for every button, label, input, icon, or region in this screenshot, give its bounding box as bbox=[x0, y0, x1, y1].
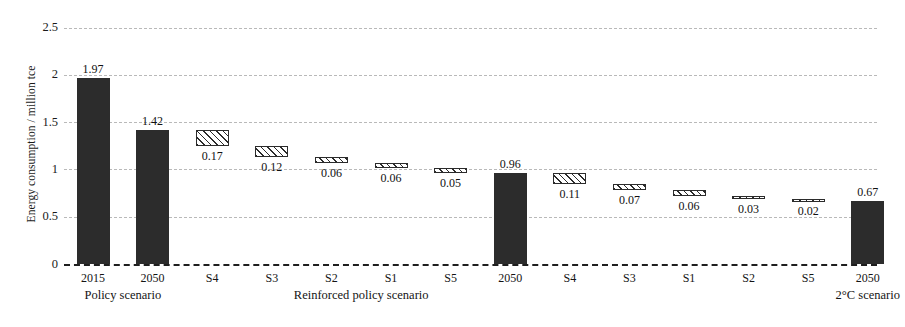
bar-hatched bbox=[375, 163, 408, 169]
bar-value-label: 0.06 bbox=[666, 200, 712, 212]
x-tick-label: 2015 bbox=[65, 272, 121, 284]
group-label: Policy scenario bbox=[3, 289, 243, 302]
x-tick-label: S5 bbox=[780, 272, 836, 284]
x-tick-label: 2050 bbox=[840, 272, 896, 284]
y-tick-label: 0.5 bbox=[24, 210, 58, 223]
bar-hatched bbox=[196, 130, 229, 146]
x-tick-label: 2050 bbox=[482, 272, 538, 284]
zero-axis-line bbox=[64, 264, 877, 266]
bar-solid bbox=[77, 78, 110, 264]
x-tick-label: S2 bbox=[303, 272, 359, 284]
x-tick-label: S1 bbox=[661, 272, 717, 284]
x-tick-label: S3 bbox=[244, 272, 300, 284]
bar-hatched bbox=[255, 146, 288, 157]
bar-hatched bbox=[553, 173, 586, 183]
bar-value-label: 0.07 bbox=[606, 194, 652, 206]
gridline bbox=[64, 122, 877, 123]
bar-hatched bbox=[613, 184, 646, 191]
bar-value-label: 0.67 bbox=[845, 186, 891, 198]
x-tick-label: S5 bbox=[423, 272, 479, 284]
x-tick-label: S4 bbox=[184, 272, 240, 284]
bar-solid bbox=[136, 130, 169, 264]
y-tick-label: 1 bbox=[24, 163, 58, 176]
x-tick-label: S1 bbox=[363, 272, 419, 284]
x-tick-label: S2 bbox=[721, 272, 777, 284]
plot-area: 1.971.420.170.120.060.060.050.960.110.07… bbox=[64, 0, 877, 327]
bar-hatched bbox=[434, 168, 467, 173]
bar-value-label: 0.02 bbox=[785, 205, 831, 217]
bar-hatched bbox=[732, 196, 765, 199]
x-tick-label: S3 bbox=[601, 272, 657, 284]
group-label: Reinforced policy scenario bbox=[241, 289, 481, 302]
gridline bbox=[64, 217, 877, 218]
bar-value-label: 0.17 bbox=[189, 150, 235, 162]
bar-hatched bbox=[315, 157, 348, 163]
x-tick-label: 2050 bbox=[125, 272, 181, 284]
y-tick-label: 2 bbox=[24, 68, 58, 81]
bar-value-label: 0.06 bbox=[368, 172, 414, 184]
bar-solid bbox=[494, 173, 527, 264]
x-tick-label: S4 bbox=[542, 272, 598, 284]
bar-value-label: 0.96 bbox=[487, 158, 533, 170]
bar-value-label: 0.03 bbox=[726, 203, 772, 215]
y-tick-label: 1.5 bbox=[24, 116, 58, 129]
y-tick-label: 2.5 bbox=[24, 21, 58, 34]
bar-value-label: 0.05 bbox=[428, 177, 474, 189]
y-tick-label: 0 bbox=[24, 258, 58, 271]
gridline bbox=[64, 28, 877, 29]
bar-value-label: 0.11 bbox=[547, 188, 593, 200]
gridline bbox=[64, 169, 877, 170]
y-axis-tick-labels: 00.511.522.5 bbox=[24, 0, 58, 327]
bar-value-label: 1.97 bbox=[70, 63, 116, 75]
bar-value-label: 0.12 bbox=[249, 161, 295, 173]
bar-value-label: 0.06 bbox=[308, 167, 354, 179]
bar-hatched bbox=[673, 190, 706, 196]
group-label: 2°C scenario bbox=[748, 289, 905, 302]
gridline bbox=[64, 75, 877, 76]
bar-hatched bbox=[792, 199, 825, 202]
bar-value-label: 1.42 bbox=[130, 115, 176, 127]
bar-solid bbox=[851, 201, 884, 264]
